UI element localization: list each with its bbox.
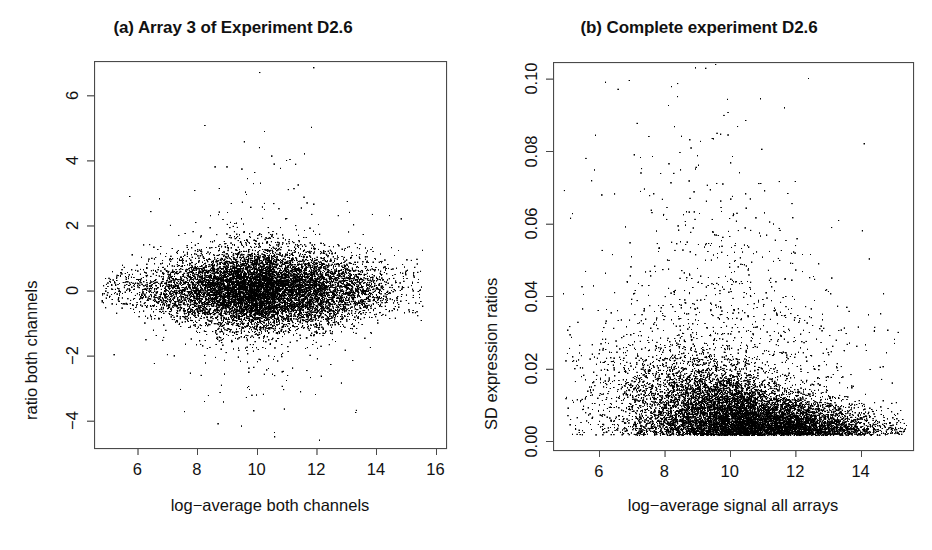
panel-a-y-tick-5: 6 [63,66,82,126]
panel-b-y-tick-2: 0.04 [522,266,541,326]
panel-a-y-axis-label: ratio both channels [22,281,41,420]
panel-a-y-tick-4: 4 [63,131,82,191]
figure-root: (a) Array 3 of Experiment D2.6 log−avera… [0,0,932,550]
panel-a: (a) Array 3 of Experiment D2.6 log−avera… [0,0,466,550]
panel-b: (b) Complete experiment D2.6 log−average… [466,0,932,550]
panel-a-x-axis-label: log−average both channels [54,496,486,515]
panel-b-y-tick-0: 0.00 [522,411,541,471]
panel-a-y-tick-1: −2 [63,326,82,386]
panel-b-title: (b) Complete experiment D2.6 [466,18,932,38]
panel-a-title: (a) Array 3 of Experiment D2.6 [0,18,466,38]
panel-b-y-tick-5: 0.10 [522,49,541,109]
panel-a-y-tick-2: 0 [63,261,82,321]
panel-b-y-tick-1: 0.02 [522,339,541,399]
panel-a-axes-frame [80,59,450,464]
panel-a-y-tick-3: 2 [63,196,82,256]
panel-b-x-axis-label: log−average signal all arrays [513,496,932,515]
panel-b-y-tick-3: 0.06 [522,194,541,254]
panel-b-y-tick-4: 0.08 [522,121,541,181]
panel-b-axes-frame [539,60,917,466]
panel-a-y-tick-0: −4 [63,391,82,451]
panel-b-y-axis-label: SD expression ratios [482,278,501,430]
